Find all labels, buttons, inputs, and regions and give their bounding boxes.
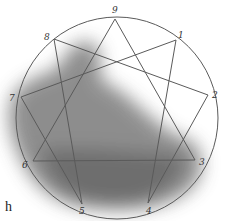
point-label-6: 6 <box>22 161 28 170</box>
stray-letter: h <box>5 200 12 214</box>
point-label-8: 8 <box>44 33 50 42</box>
watercolor-shadow <box>9 42 202 210</box>
enneagram-diagram <box>0 0 225 221</box>
point-label-9: 9 <box>112 6 118 15</box>
point-label-3: 3 <box>199 158 205 167</box>
point-label-5: 5 <box>79 207 85 216</box>
point-label-4: 4 <box>146 207 152 216</box>
point-label-2: 2 <box>212 91 218 100</box>
point-label-7: 7 <box>9 94 15 103</box>
point-label-1: 1 <box>178 31 184 40</box>
